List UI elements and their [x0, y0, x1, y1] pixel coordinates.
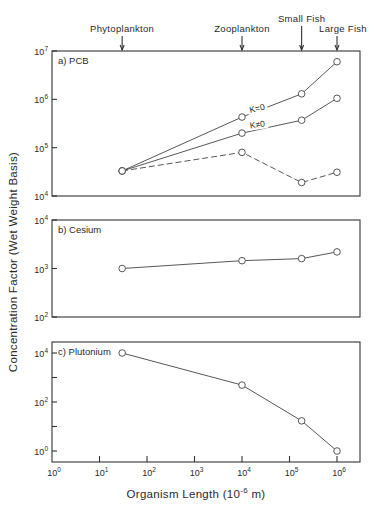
organism-labels: PhytoplanktonZooplanktonSmall FishLarge …	[90, 13, 367, 50]
data-point-marker	[239, 149, 246, 156]
x-tick-label: 105	[285, 466, 299, 478]
data-point-marker	[239, 130, 246, 137]
y-tick-label: 102	[34, 396, 48, 408]
panel-label: b) Cesium	[58, 224, 101, 235]
panel-cesium: 102103104b) Cesium	[34, 214, 360, 323]
data-point-marker	[334, 58, 341, 65]
y-tick-label: 102	[34, 311, 48, 323]
panel-plutonium: 100102104c) Plutonium	[34, 342, 360, 462]
y-tick-label: 103	[34, 263, 48, 275]
x-axis-title: Organism Length (10-6 m)	[127, 486, 266, 500]
x-tick-label: 106	[332, 466, 346, 478]
data-point-marker	[298, 418, 305, 425]
data-point-marker	[239, 114, 246, 121]
svg-text:K=0: K=0	[248, 102, 266, 115]
data-point-marker	[119, 168, 126, 175]
y-tick-label: 107	[34, 45, 48, 57]
x-axis: 100101102103104105106	[47, 456, 346, 478]
x-axis-title-main: Organism Length (10	[127, 488, 241, 500]
panel-label: a) PCB	[58, 55, 89, 66]
panel-pcb: 104105106107a) PCBK=0K≠0	[34, 45, 360, 202]
y-tick-label: 100	[34, 445, 48, 457]
y-tick-label: 106	[34, 93, 48, 105]
x-axis-title-tail: m)	[248, 488, 266, 500]
series-annotation: K=0	[246, 101, 268, 116]
data-point-marker	[334, 249, 341, 256]
data-point-marker	[239, 382, 246, 389]
organism-label: Phytoplankton	[90, 23, 154, 34]
data-point-marker	[334, 95, 341, 102]
y-tick-label: 104	[34, 190, 48, 202]
organism-label: Zooplankton	[214, 23, 270, 34]
data-point-marker	[298, 255, 305, 262]
data-point-marker	[298, 179, 305, 186]
data-point-marker	[334, 448, 341, 455]
organism-label: Large Fish	[319, 23, 367, 34]
x-tick-label: 102	[142, 466, 156, 478]
data-point-marker	[334, 169, 341, 176]
svg-text:K≠0: K≠0	[249, 118, 266, 130]
data-point-marker	[119, 265, 126, 272]
y-tick-label: 105	[34, 142, 48, 154]
data-point-marker	[298, 91, 305, 98]
x-tick-label: 101	[95, 466, 109, 478]
plot-frame	[52, 51, 360, 196]
x-tick-label: 100	[47, 466, 61, 478]
plot-frame	[52, 342, 360, 462]
series-line	[122, 353, 337, 451]
data-point-marker	[119, 350, 126, 357]
trophic-concentration-figure: PhytoplanktonZooplanktonSmall FishLarge …	[0, 0, 376, 515]
y-axis-title: Concentration Factor (Wet Weight Basis)	[7, 152, 19, 372]
data-point-marker	[298, 117, 305, 124]
y-tick-label: 104	[34, 214, 48, 226]
data-point-marker	[239, 257, 246, 264]
series-line	[122, 98, 337, 171]
x-tick-label: 103	[190, 466, 204, 478]
series-annotation: K≠0	[247, 118, 268, 131]
y-tick-label: 104	[34, 347, 48, 359]
panel-label: c) Plutonium	[58, 346, 111, 357]
x-tick-label: 104	[237, 466, 251, 478]
